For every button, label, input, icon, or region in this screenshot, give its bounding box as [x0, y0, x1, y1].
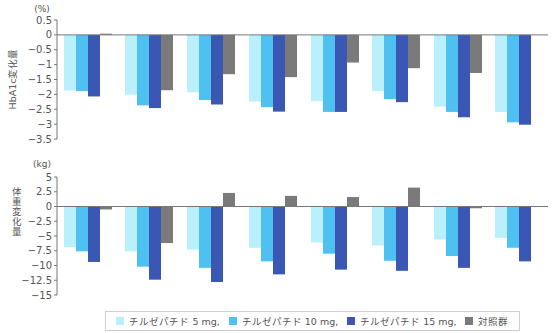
bar — [519, 207, 531, 262]
bar — [137, 207, 149, 267]
bar — [446, 207, 458, 257]
bar — [261, 35, 273, 107]
bar — [88, 35, 100, 97]
bar — [223, 193, 235, 207]
y-tick-label: −3 — [37, 119, 52, 130]
unit-label: (kg) — [33, 159, 51, 169]
legend-item-5mg: チルゼパチド 5 mg, — [116, 314, 219, 328]
weight-chart: (kg)体重変化量52.50−2.5−5−7.5−10−12.5−15 — [11, 159, 549, 301]
bar — [76, 35, 88, 91]
legend-label-control: 対照群 — [478, 314, 508, 328]
bar — [458, 207, 470, 268]
bar — [335, 35, 347, 112]
legend-swatch-15mg — [347, 317, 355, 325]
bar — [311, 207, 323, 243]
bar — [347, 197, 359, 206]
y-axis-label: HbA1c変化量 — [7, 49, 18, 110]
hba1c-chart: (%)HbA1c変化量0.50−0.5−1−1.5−2−2.5−3−3.5 — [7, 4, 548, 145]
bar — [434, 35, 446, 107]
y-tick-label: −2.5 — [28, 216, 52, 227]
bar — [507, 35, 519, 122]
chart-area: (%)HbA1c変化量0.50−0.5−1−1.5−2−2.5−3−3.5 (k… — [0, 0, 554, 310]
bar — [249, 207, 261, 248]
y-tick-label: −0.5 — [28, 44, 52, 55]
bar — [446, 35, 458, 112]
bar — [64, 35, 76, 91]
bar — [396, 207, 408, 271]
y-tick-label: −2.5 — [28, 104, 52, 115]
y-tick-label: −12.5 — [21, 275, 52, 286]
bar — [495, 207, 507, 238]
bar — [396, 35, 408, 102]
unit-label: (%) — [34, 4, 50, 14]
bar — [372, 207, 384, 246]
legend-label-15mg: チルゼパチド 15 mg, — [360, 314, 456, 328]
bar — [335, 207, 347, 270]
bar — [161, 207, 173, 244]
bar — [161, 35, 173, 90]
bar — [199, 35, 211, 100]
y-tick-label: 0 — [46, 29, 52, 40]
bar — [519, 35, 531, 125]
bar — [273, 207, 285, 275]
bar — [495, 35, 507, 112]
bar — [149, 35, 161, 108]
bar — [372, 35, 384, 91]
bar — [285, 35, 297, 77]
legend-item-control: 対照群 — [465, 314, 508, 328]
bar — [187, 207, 199, 250]
bar — [458, 35, 470, 117]
bar — [261, 207, 273, 262]
y-tick-label: −10 — [31, 260, 52, 271]
bar — [285, 196, 297, 207]
bar — [323, 35, 335, 112]
bar — [211, 207, 223, 283]
bar — [434, 207, 446, 240]
bar — [273, 35, 285, 112]
y-tick-label: −1 — [37, 59, 52, 70]
y-tick-label: 2.5 — [36, 186, 52, 197]
legend-item-10mg: チルゼパチド 10 mg, — [229, 314, 338, 328]
bar — [88, 207, 100, 262]
legend-swatch-10mg — [229, 317, 237, 325]
legend: チルゼパチド 5 mg, チルゼパチド 10 mg, チルゼパチド 15 mg,… — [105, 311, 520, 331]
bar — [125, 35, 137, 95]
legend-label-10mg: チルゼパチド 10 mg, — [242, 314, 338, 328]
bar — [323, 207, 335, 254]
y-tick-label: 0 — [46, 201, 52, 212]
y-axis-label: 体重変化量 — [11, 186, 22, 237]
bar — [408, 35, 420, 68]
bar — [211, 35, 223, 105]
y-tick-label: 5 — [46, 172, 52, 183]
legend-label-5mg: チルゼパチド 5 mg, — [129, 314, 219, 328]
bar — [64, 207, 76, 248]
bar — [384, 35, 396, 99]
bar — [470, 35, 482, 73]
bar — [187, 35, 199, 92]
bar — [223, 35, 235, 74]
legend-swatch-5mg — [116, 317, 124, 325]
y-tick-label: −15 — [31, 290, 52, 301]
y-tick-label: 0.5 — [36, 15, 52, 26]
bar — [125, 207, 137, 252]
bar — [149, 207, 161, 280]
bar — [384, 207, 396, 261]
bar — [408, 188, 420, 207]
bar — [137, 35, 149, 106]
bar — [249, 35, 261, 102]
bar — [311, 35, 323, 101]
y-tick-label: −3.5 — [28, 134, 52, 145]
y-tick-label: −1.5 — [28, 74, 52, 85]
bar — [347, 35, 359, 63]
y-tick-label: −5 — [37, 231, 52, 242]
y-tick-label: −7.5 — [28, 245, 52, 256]
bar — [507, 207, 519, 248]
y-tick-label: −2 — [37, 89, 52, 100]
legend-item-15mg: チルゼパチド 15 mg, — [347, 314, 456, 328]
bar — [76, 207, 88, 252]
bar — [199, 207, 211, 268]
legend-swatch-control — [465, 317, 473, 325]
